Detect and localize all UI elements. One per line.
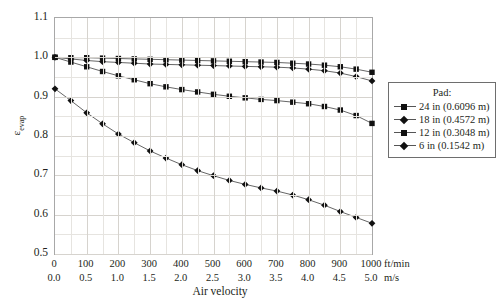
legend-square-icon — [394, 102, 416, 112]
grid-line-vertical — [118, 18, 119, 254]
chart-figure: εevap Air velocity ft/min m/s Pad: 24 in… — [0, 0, 502, 308]
y-axis-tick-label: 0.7 — [0, 168, 48, 180]
legend-item-label: 24 in (0.6096 m) — [419, 101, 490, 112]
legend-item: 24 in (0.6096 m) — [394, 100, 490, 113]
y-axis-tick-label: 0.9 — [0, 90, 48, 102]
x-axis-tick-label-ms: 5.0 — [341, 273, 401, 284]
data-point-square — [369, 121, 374, 126]
grid-line-vertical-minor — [261, 18, 262, 254]
data-point-diamond — [369, 78, 376, 85]
grid-line-vertical-minor — [198, 18, 199, 254]
grid-line-vertical-minor — [293, 18, 294, 254]
y-axis-tick-label: 0.6 — [0, 208, 48, 220]
grid-line-vertical — [182, 18, 183, 254]
grid-line-vertical — [245, 18, 246, 254]
grid-line-vertical — [87, 18, 88, 254]
y-axis-tick-label: 0.5 — [0, 247, 48, 259]
grid-line-horizontal — [55, 254, 372, 255]
legend: Pad: 24 in (0.6096 m)18 in (0.4572 m)12 … — [388, 82, 496, 158]
y-axis-label: εevap — [10, 96, 25, 156]
legend-item-label: 6 in (0.1542 m) — [419, 140, 484, 151]
y-axis-tick-label: 0.8 — [0, 129, 48, 141]
grid-line-vertical — [150, 18, 151, 254]
grid-line-vertical-minor — [103, 18, 104, 254]
legend-item-label: 18 in (0.4572 m) — [419, 114, 490, 125]
data-point-square — [369, 70, 374, 75]
legend-items: 24 in (0.6096 m)18 in (0.4572 m)12 in (0… — [394, 100, 490, 152]
plot-area — [54, 17, 373, 255]
legend-diamond-icon — [394, 115, 416, 125]
grid-line-vertical-minor — [71, 18, 72, 254]
legend-diamond-icon — [394, 141, 416, 151]
x-axis-label: Air velocity — [140, 285, 300, 297]
data-point-diamond — [369, 220, 376, 227]
grid-line-vertical — [309, 18, 310, 254]
grid-line-vertical — [340, 18, 341, 254]
grid-line-vertical — [214, 18, 215, 254]
legend-item: 12 in (0.3048 m) — [394, 126, 490, 139]
legend-square-icon — [394, 128, 416, 138]
grid-line-vertical-minor — [229, 18, 230, 254]
grid-line-vertical-minor — [134, 18, 135, 254]
legend-item: 18 in (0.4572 m) — [394, 113, 490, 126]
grid-line-vertical-minor — [356, 18, 357, 254]
legend-item: 6 in (0.1542 m) — [394, 139, 490, 152]
data-point-diamond — [52, 85, 59, 92]
x-axis-tick-label-ftmin: 1000 — [341, 259, 401, 270]
y-axis-tick-label: 1.0 — [0, 50, 48, 62]
grid-line-vertical — [277, 18, 278, 254]
grid-line-vertical-minor — [166, 18, 167, 254]
legend-item-label: 12 in (0.3048 m) — [419, 127, 490, 138]
grid-line-vertical-minor — [324, 18, 325, 254]
legend-title: Pad: — [394, 87, 490, 98]
y-axis-tick-label: 1.1 — [0, 11, 48, 23]
